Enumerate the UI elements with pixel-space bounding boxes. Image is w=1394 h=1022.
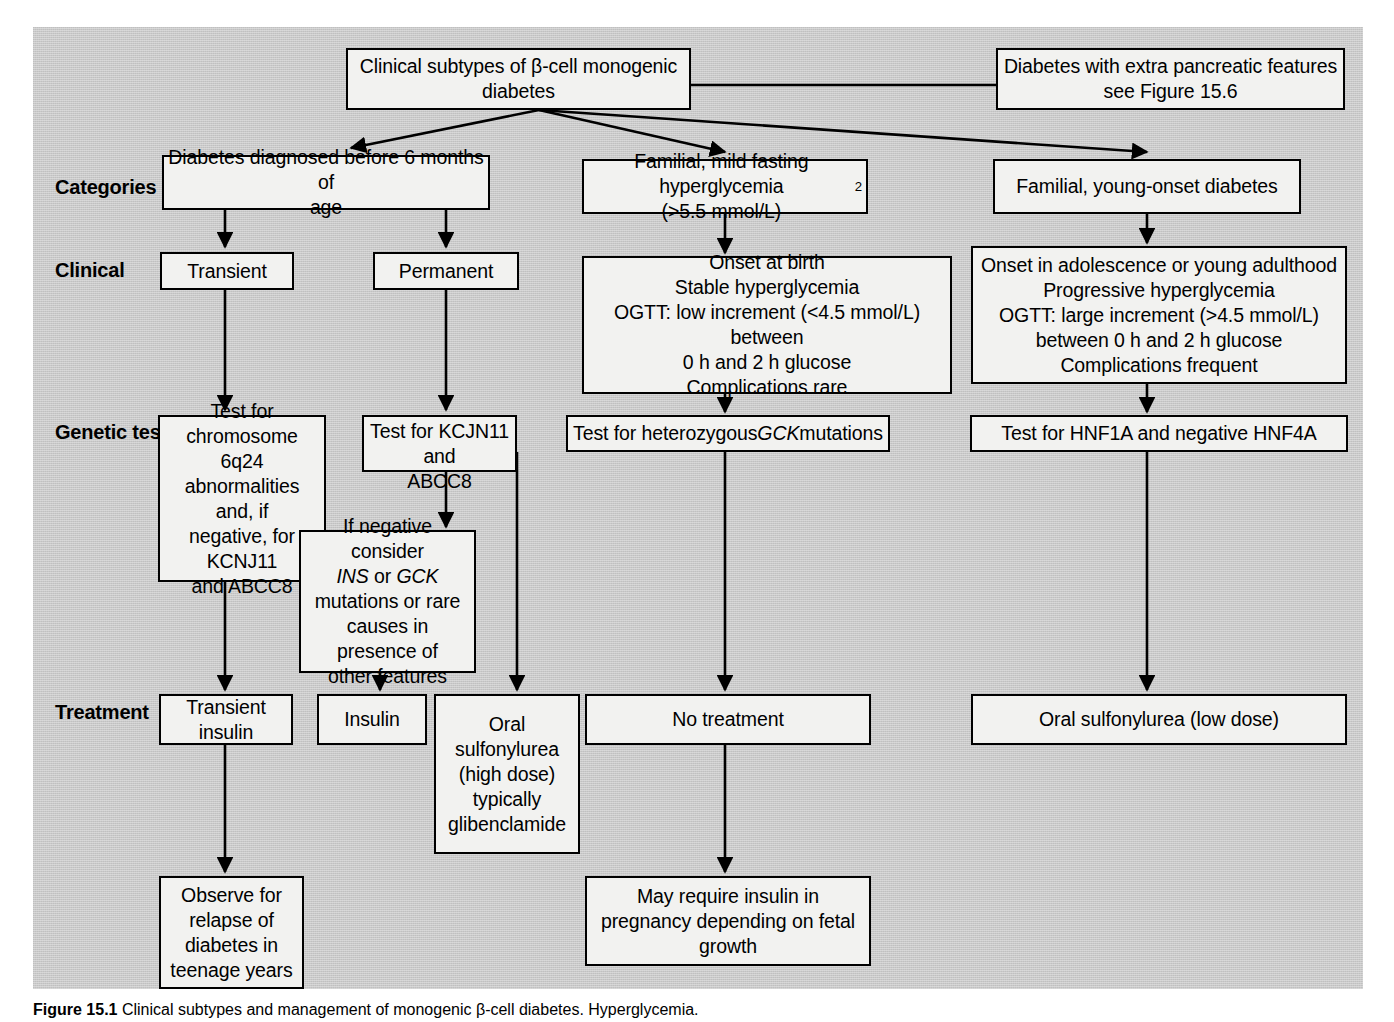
node-clinical-gck-features: Onset at birth Stable hyperglycemia OGTT… (582, 256, 952, 394)
node-category-neonatal-diabetes: Diabetes diagnosed before 6 months of ag… (162, 155, 490, 210)
if-negative-line2: INS or GCK (337, 564, 439, 589)
node-treatment-insulin: Insulin (317, 694, 427, 745)
figure-caption: Figure 15.1 Clinical subtypes and manage… (33, 1000, 1363, 1020)
if-negative-line3: mutations or rare causes in presence of … (305, 589, 470, 689)
node-genetic-test-kcjn11-abcc8: Test for KCJN11 and ABCC8 (362, 415, 517, 472)
node-category-familial-mild-text: Familial, mild fasting hyperglycemia (>5… (588, 149, 855, 224)
row-label-treatment: Treatment (55, 700, 149, 724)
gene-gck: GCK (397, 565, 439, 587)
row-label-genetic-test: Genetic test (55, 420, 167, 444)
if-negative-or: or (369, 565, 397, 587)
node-genetic-gck-suffix: mutations (799, 421, 883, 446)
figure-caption-label: Figure 15.1 (33, 1001, 117, 1018)
node-treatment-oral-sulfonylurea-high-dose: Oral sulfonylurea (high dose) typically … (434, 694, 580, 854)
gene-ins: INS (337, 565, 369, 587)
node-clinical-transient: Transient (160, 252, 294, 290)
figure-caption-text: Clinical subtypes and management of mono… (122, 1001, 699, 1018)
node-genetic-test-hnf: Test for HNF1A and negative HNF4A (970, 415, 1348, 452)
node-genetic-test-gck: Test for heterozygous GCK mutations (566, 415, 890, 452)
node-category-familial-young-onset: Familial, young-onset diabetes (993, 159, 1301, 214)
node-treatment-oral-sulfonylurea-low-dose: Oral sulfonylurea (low dose) (971, 694, 1347, 745)
node-genetic-gck-prefix: Test for heterozygous (573, 421, 757, 446)
node-clinical-hnf-features: Onset in adolescence or young adulthood … (971, 246, 1347, 384)
node-category-familial-mild-fasting-hyperglycemia: Familial, mild fasting hyperglycemia (>5… (582, 159, 868, 214)
node-treatment-no-treatment: No treatment (585, 694, 871, 745)
node-outcome-observe-relapse: Observe for relapse of diabetes in teena… (159, 876, 304, 989)
row-label-clinical: Clinical (55, 258, 125, 282)
node-if-negative-consider: If negative consider INS or GCK mutation… (299, 530, 476, 673)
node-clinical-permanent: Permanent (373, 252, 519, 290)
if-negative-line1: If negative consider (305, 514, 470, 564)
node-genetic-gck-gene: GCK (757, 421, 799, 446)
node-outcome-insulin-in-pregnancy: May require insulin in pregnancy dependi… (585, 876, 871, 966)
row-label-categories: Categories (55, 175, 156, 199)
figure-page: Categories Clinical Genetic test Treatme… (0, 0, 1394, 1022)
node-root-clinical-subtypes: Clinical subtypes of β-cell monogenic di… (346, 48, 691, 110)
node-extra-pancreatic-features: Diabetes with extra pancreatic features … (996, 48, 1345, 110)
node-treatment-transient-insulin: Transient insulin (159, 694, 293, 745)
